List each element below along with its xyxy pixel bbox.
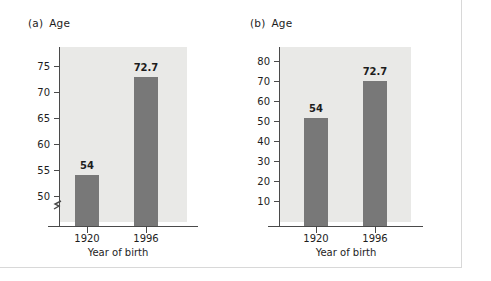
- y-tick-label-b-60: 60: [238, 96, 270, 107]
- y-axis-b: [279, 47, 280, 227]
- y-tick-b-50: [274, 121, 280, 122]
- x-axis-title-b: Year of birth: [316, 247, 377, 258]
- x-tick-label-a-1996: 1996: [133, 233, 158, 244]
- y-tick-b-40: [274, 141, 280, 142]
- x-tick-label-a-1920: 1920: [74, 233, 99, 244]
- bar-label-a-1920: 54: [80, 160, 94, 171]
- y-tick-a-60: [54, 144, 60, 145]
- chart-panel-a: (a)Age 75 70 65 60 55 50 54 72.7 1920 19…: [6, 0, 236, 281]
- y-tick-label-a-50: 50: [18, 191, 50, 202]
- bar-label-b-1996: 72.7: [363, 66, 388, 77]
- y-tick-label-b-20: 20: [238, 176, 270, 187]
- y-tick-b-70: [274, 81, 280, 82]
- y-tick-b-60: [274, 101, 280, 102]
- y-tick-a-50: [54, 196, 60, 197]
- y-tick-a-70: [54, 92, 60, 93]
- bar-b-1920[interactable]: [304, 118, 328, 226]
- bar-a-1996[interactable]: [134, 77, 158, 226]
- y-tick-label-a-60: 60: [18, 139, 50, 150]
- y-tick-label-b-80: 80: [238, 56, 270, 67]
- y-tick-b-30: [274, 161, 280, 162]
- x-axis-a: [48, 226, 198, 227]
- y-tick-label-a-65: 65: [18, 113, 50, 124]
- x-tick-label-b-1996: 1996: [362, 233, 387, 244]
- x-axis-b: [268, 226, 423, 227]
- bar-label-a-1996: 72.7: [134, 62, 159, 73]
- y-tick-label-b-70: 70: [238, 76, 270, 87]
- bar-b-1996[interactable]: [363, 81, 387, 226]
- y-tick-label-b-10: 10: [238, 196, 270, 207]
- x-axis-title-a: Year of birth: [88, 247, 149, 258]
- y-tick-label-a-55: 55: [18, 165, 50, 176]
- y-tick-b-10: [274, 201, 280, 202]
- y-tick-a-75: [54, 66, 60, 67]
- y-tick-a-55: [54, 170, 60, 171]
- y-tick-label-b-30: 30: [238, 156, 270, 167]
- axis-break-icon: [53, 200, 67, 212]
- plot-area-b: [280, 47, 411, 222]
- y-tick-b-80: [274, 61, 280, 62]
- y-tick-b-20: [274, 181, 280, 182]
- y-tick-a-65: [54, 118, 60, 119]
- y-tick-label-a-75: 75: [18, 61, 50, 72]
- panel-b-label: Age: [271, 17, 292, 29]
- y-tick-label-a-70: 70: [18, 87, 50, 98]
- panel-b-title: (b)Age: [250, 17, 292, 29]
- y-tick-label-b-40: 40: [238, 136, 270, 147]
- panel-a-tag: (a): [28, 17, 43, 29]
- y-tick-label-b-50: 50: [238, 116, 270, 127]
- x-tick-label-b-1920: 1920: [303, 233, 328, 244]
- bar-label-b-1920: 54: [309, 103, 323, 114]
- chart-panel-b: (b)Age 80 70 60 50 40 30 20 10 54 72.7 1…: [228, 0, 458, 281]
- panel-a-label: Age: [49, 17, 70, 29]
- bar-a-1920[interactable]: [75, 175, 99, 226]
- panel-b-tag: (b): [250, 17, 265, 29]
- panel-a-title: (a)Age: [28, 17, 70, 29]
